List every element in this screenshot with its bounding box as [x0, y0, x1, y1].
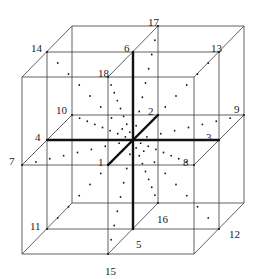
dot [63, 155, 65, 157]
dot [89, 184, 91, 186]
dot [118, 142, 120, 144]
dot [197, 206, 199, 208]
dot [155, 148, 157, 150]
dot [145, 171, 147, 173]
point-marker [218, 228, 220, 230]
dot [178, 158, 180, 160]
dot [145, 82, 147, 84]
dot [175, 184, 177, 186]
dot [148, 68, 150, 70]
dot [207, 62, 209, 64]
dot [68, 206, 70, 208]
cube-diagram: 123456789101112131415161718 [0, 0, 255, 279]
dot [229, 117, 231, 119]
dot [135, 125, 137, 127]
dot [102, 127, 104, 129]
dot [188, 127, 190, 129]
dot [100, 172, 102, 174]
point-marker [107, 253, 109, 255]
dot [164, 172, 166, 174]
dot [129, 131, 131, 133]
point-label-8: 8 [183, 156, 189, 168]
dot [135, 147, 137, 149]
dot [154, 161, 156, 163]
dot [170, 155, 172, 157]
point-label-4: 4 [35, 131, 41, 143]
dot [126, 123, 128, 125]
point-label-11: 11 [30, 220, 41, 232]
dot [141, 96, 143, 98]
dot [120, 108, 122, 110]
dot [154, 39, 156, 41]
dot [160, 133, 162, 135]
dot [147, 145, 149, 147]
point-label-14: 14 [31, 42, 43, 54]
dot [123, 115, 125, 117]
point-marker [71, 114, 73, 116]
point-marker [193, 164, 195, 166]
dot [110, 239, 112, 241]
dot [86, 120, 88, 122]
dot [126, 168, 128, 170]
dot [113, 225, 115, 227]
point-label-3: 3 [206, 131, 212, 143]
dot [174, 130, 176, 132]
point-label-6: 6 [124, 42, 130, 54]
dot [138, 155, 140, 157]
dot [79, 117, 81, 119]
dot [148, 178, 150, 180]
point-marker [46, 228, 48, 230]
dot [186, 84, 188, 86]
dot [140, 142, 142, 144]
dot [77, 152, 79, 154]
dot [78, 84, 80, 86]
dot [113, 92, 115, 94]
dot [116, 100, 118, 102]
dot [100, 106, 102, 108]
dot [90, 148, 92, 150]
point-label-1: 1 [98, 156, 104, 168]
point-label-17: 17 [148, 16, 160, 28]
dot [151, 186, 153, 188]
dot [129, 153, 131, 155]
dot [163, 152, 165, 154]
dot [104, 145, 106, 147]
dot [78, 195, 80, 197]
dot [215, 120, 217, 122]
bold-axes [47, 52, 219, 229]
dot [57, 217, 59, 219]
dot [116, 210, 118, 212]
dot [89, 95, 91, 97]
dot [120, 196, 122, 198]
dot [154, 194, 156, 196]
dot [111, 117, 113, 119]
point-label-9: 9 [234, 103, 240, 115]
point-label-10: 10 [56, 104, 68, 116]
dot [146, 136, 148, 138]
point-label-13: 13 [211, 42, 223, 54]
dot [143, 150, 145, 152]
dot [68, 73, 70, 75]
dot [164, 106, 166, 108]
point-marker [157, 202, 159, 204]
dot [138, 111, 140, 113]
point-label-7: 7 [9, 155, 15, 167]
point-marker [243, 114, 245, 116]
dot [141, 163, 143, 165]
point-label-2: 2 [148, 105, 154, 117]
point-marker [46, 51, 48, 53]
dot [121, 128, 123, 130]
dot [109, 130, 111, 132]
point-label-16: 16 [157, 213, 169, 225]
dot [201, 123, 203, 125]
point-label-15: 15 [105, 265, 117, 277]
dot [151, 54, 153, 56]
dot [175, 95, 177, 97]
dot [207, 217, 209, 219]
dot [94, 123, 96, 125]
point-label-18: 18 [98, 67, 110, 79]
dot [49, 158, 51, 160]
dot [197, 73, 199, 75]
dot [124, 136, 126, 138]
dot [186, 195, 188, 197]
